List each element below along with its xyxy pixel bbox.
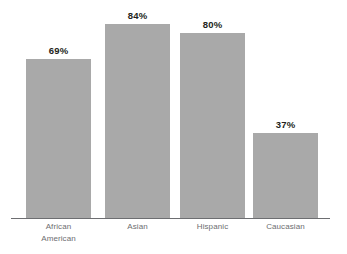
bar-chart: 69% 84% 80% 37% African American Asian H… — [0, 0, 347, 254]
bar-group-hispanic[interactable]: 80% — [180, 0, 245, 218]
bar-rect[interactable] — [105, 24, 170, 218]
category-label-caucasian: Caucasian — [253, 221, 318, 233]
bar-value-label: 37% — [276, 119, 296, 130]
bar-group-african-american[interactable]: 69% — [26, 0, 91, 218]
category-label-line1: Caucasian — [253, 221, 318, 233]
x-axis-line — [11, 218, 330, 219]
bar-group-caucasian[interactable]: 37% — [253, 0, 318, 218]
category-label-line1: Asian — [105, 221, 170, 233]
bar-rect[interactable] — [180, 33, 245, 218]
category-label-african-american: African American — [26, 221, 91, 244]
bar-value-label: 80% — [203, 19, 223, 30]
category-axis: African American Asian Hispanic Caucasia… — [0, 221, 347, 254]
bar-group-asian[interactable]: 84% — [105, 0, 170, 218]
bar-rect[interactable] — [26, 59, 91, 218]
category-label-hispanic: Hispanic — [180, 221, 245, 233]
bar-value-label: 84% — [128, 10, 148, 21]
category-label-line1: African — [26, 221, 91, 233]
category-label-line1: Hispanic — [180, 221, 245, 233]
bar-rect[interactable] — [253, 133, 318, 219]
plot-area: 69% 84% 80% 37% — [0, 0, 347, 218]
category-label-asian: Asian — [105, 221, 170, 233]
bar-value-label: 69% — [49, 45, 69, 56]
category-label-line2: American — [26, 233, 91, 245]
